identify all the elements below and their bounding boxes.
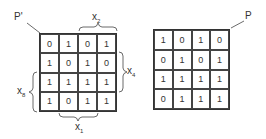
cell: 1 xyxy=(40,73,59,92)
cell: 0 xyxy=(59,92,78,111)
cell: 0 xyxy=(59,53,78,72)
cell: 1 xyxy=(40,92,59,111)
cell: 1 xyxy=(59,73,78,92)
cell: 1 xyxy=(173,50,192,70)
p-prime-leader-line xyxy=(27,23,40,33)
cell: 0 xyxy=(192,50,211,70)
x1-label: x1 xyxy=(75,121,83,134)
cell: 1 xyxy=(97,34,116,53)
cell: 1 xyxy=(97,73,116,92)
cell: 1 xyxy=(173,70,192,90)
cell: 0 xyxy=(97,53,116,72)
cell: 1 xyxy=(192,70,211,90)
cell: 0 xyxy=(40,34,59,53)
cell: 1 xyxy=(192,30,211,50)
x1-brace xyxy=(59,113,98,121)
p-prime-label: P' xyxy=(14,11,23,22)
x4-brace xyxy=(119,52,127,92)
cell: 1 xyxy=(173,89,192,109)
cell: 1 xyxy=(78,53,97,72)
cell: 0 xyxy=(78,34,97,53)
cell: 1 xyxy=(78,92,97,111)
cell: 0 xyxy=(173,30,192,50)
x2-brace xyxy=(79,23,117,31)
x8-brace xyxy=(29,72,37,112)
cell: 1 xyxy=(154,70,173,90)
left-matrix-p-prime: 0 1 0 1 1 0 1 0 1 1 1 1 1 0 1 1 xyxy=(39,33,117,112)
right-matrix-p: 1 0 1 0 0 1 0 1 1 1 1 1 0 1 1 1 xyxy=(153,29,230,110)
cell: 1 xyxy=(97,92,116,111)
x4-label: x4 xyxy=(127,65,135,78)
cell: 1 xyxy=(210,50,229,70)
cell: 1 xyxy=(192,89,211,109)
cell: 1 xyxy=(210,70,229,90)
cell: 1 xyxy=(59,34,78,53)
p-label: P xyxy=(245,10,252,21)
cell: 0 xyxy=(154,89,173,109)
cell: 0 xyxy=(154,50,173,70)
x8-label: x8 xyxy=(17,85,25,98)
cell: 0 xyxy=(210,30,229,50)
cell: 1 xyxy=(210,89,229,109)
x2-label: x2 xyxy=(92,11,100,24)
cell: 1 xyxy=(78,73,97,92)
p-leader-line xyxy=(231,21,244,28)
cell: 1 xyxy=(40,53,59,72)
cell: 1 xyxy=(154,30,173,50)
